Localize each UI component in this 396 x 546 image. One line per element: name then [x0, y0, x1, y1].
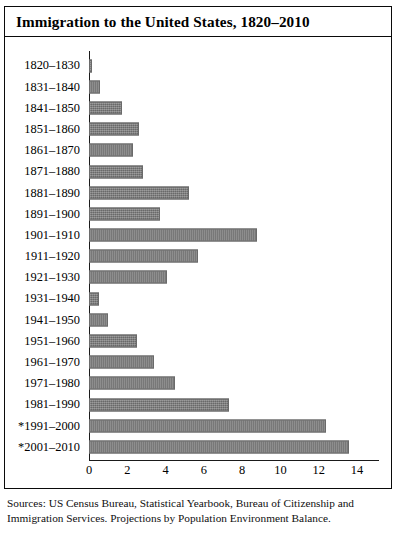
bar	[89, 377, 175, 390]
bar-rows: 1820–18301831–18401841–18501851–18601861…	[5, 55, 391, 458]
bar	[89, 186, 189, 199]
category-label: 1951–1960	[5, 335, 89, 347]
bar-cell	[89, 76, 391, 97]
bar-cell	[89, 119, 391, 140]
category-label: 1881–1890	[5, 187, 89, 199]
bar	[89, 250, 198, 263]
source-note: Sources: US Census Bureau, Statistical Y…	[7, 496, 389, 526]
bar-cell	[89, 161, 391, 182]
category-label: 1841–1850	[5, 102, 89, 114]
category-label: 1941–1950	[5, 314, 89, 326]
bar-row: 1961–1970	[5, 352, 391, 373]
category-label: 1971–1980	[5, 377, 89, 389]
bar-row: 1921–1930	[5, 267, 391, 288]
bar-row: 1901–1910	[5, 225, 391, 246]
category-label: 1921–1930	[5, 271, 89, 283]
bar-cell	[89, 55, 391, 76]
x-tick-label: 8	[239, 464, 245, 476]
bar-row: 1911–1920	[5, 246, 391, 267]
category-label: 1911–1920	[5, 250, 89, 262]
bar	[89, 144, 133, 157]
bar-row: *1991–2000	[5, 415, 391, 436]
category-label: 1901–1910	[5, 229, 89, 241]
plot-area: 1820–18301831–18401841–18501851–18601861…	[5, 37, 391, 488]
bar	[89, 419, 326, 432]
category-label: 1831–1840	[5, 81, 89, 93]
bar	[89, 271, 167, 284]
bar-cell	[89, 267, 391, 288]
bar	[89, 229, 257, 242]
bar-row: 1820–1830	[5, 55, 391, 76]
chart-title-bar: Immigration to the United States, 1820–2…	[5, 7, 391, 37]
category-label: 1891–1900	[5, 208, 89, 220]
bar-cell	[89, 182, 391, 203]
bar	[89, 165, 143, 178]
bar-cell	[89, 330, 391, 351]
page-title: Immigration to the United States, 1820–2…	[5, 13, 310, 31]
x-tick-label: 12	[313, 464, 325, 476]
bar-row: 1871–1880	[5, 161, 391, 182]
category-label: *1991–2000	[5, 420, 89, 432]
x-tick-label: 14	[351, 464, 363, 476]
bar-row: 1891–1900	[5, 203, 391, 224]
bar-cell	[89, 394, 391, 415]
x-tick-label: 6	[201, 464, 207, 476]
bar-row: 1851–1860	[5, 119, 391, 140]
bar-cell	[89, 203, 391, 224]
bar-cell	[89, 309, 391, 330]
x-tick-label: 0	[86, 464, 92, 476]
bar-cell	[89, 246, 391, 267]
bar-row: 1831–1840	[5, 76, 391, 97]
bar	[89, 335, 137, 348]
category-label: 1931–1940	[5, 292, 89, 304]
bar-row: 1941–1950	[5, 309, 391, 330]
bar-row: 1881–1890	[5, 182, 391, 203]
bar	[89, 101, 122, 114]
bar-cell	[89, 415, 391, 436]
bar-row: *2001–2010	[5, 436, 391, 457]
x-axis-ticks: 02468101214	[89, 462, 379, 482]
bar-cell	[89, 352, 391, 373]
bar-cell	[89, 436, 391, 457]
bar-cell	[89, 97, 391, 118]
bar	[89, 292, 99, 305]
bar-row: 1861–1870	[5, 140, 391, 161]
bar-row: 1841–1850	[5, 97, 391, 118]
bar-cell	[89, 373, 391, 394]
bar	[89, 123, 139, 136]
bar-row: 1951–1960	[5, 330, 391, 351]
x-tick-label: 10	[274, 464, 286, 476]
category-label: 1820–1830	[5, 59, 89, 71]
category-label: 1861–1870	[5, 144, 89, 156]
bar	[89, 313, 108, 326]
bar	[89, 356, 154, 369]
bar	[89, 398, 229, 411]
bar-cell	[89, 225, 391, 246]
category-label: 1851–1860	[5, 123, 89, 135]
bar-row: 1931–1940	[5, 288, 391, 309]
category-label: 1871–1880	[5, 165, 89, 177]
bar	[89, 207, 160, 220]
bar-row: 1971–1980	[5, 373, 391, 394]
immigration-bar-chart-figure: Immigration to the United States, 1820–2…	[0, 0, 396, 546]
bar	[89, 440, 349, 453]
bar	[89, 59, 92, 72]
category-label: 1981–1990	[5, 398, 89, 410]
x-axis-line	[89, 460, 379, 461]
category-label: 1961–1970	[5, 356, 89, 368]
bar-row: 1981–1990	[5, 394, 391, 415]
bar-cell	[89, 288, 391, 309]
bar-cell	[89, 140, 391, 161]
bar	[89, 80, 100, 93]
x-tick-label: 2	[124, 464, 130, 476]
category-label: *2001–2010	[5, 441, 89, 453]
chart-frame: Immigration to the United States, 1820–2…	[4, 6, 392, 489]
x-tick-label: 4	[162, 464, 168, 476]
